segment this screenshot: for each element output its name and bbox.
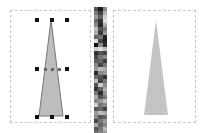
resize-handle-middle-right[interactable]: [65, 67, 69, 71]
right-preview-panel: [113, 10, 196, 123]
resize-handle-middle-left[interactable]: [35, 67, 39, 71]
left-canvas-panel[interactable]: [10, 10, 91, 123]
preview-triangle-shape: [114, 11, 197, 124]
resize-handle-bottom-left[interactable]: [35, 115, 39, 119]
resize-handle-top-right[interactable]: [65, 18, 69, 22]
resize-handle-top-center[interactable]: [50, 18, 54, 22]
resize-handle-bottom-center[interactable]: [50, 115, 54, 119]
resize-handle-bottom-right[interactable]: [65, 115, 69, 119]
palette-swatch[interactable]: [103, 131, 107, 133]
resize-handle-top-left[interactable]: [35, 18, 39, 22]
midpoint-handle-2[interactable]: [51, 68, 54, 71]
color-palette-strip[interactable]: [94, 7, 107, 123]
midpoint-handle-1[interactable]: [44, 68, 47, 71]
midpoint-handle-3[interactable]: [58, 68, 61, 71]
